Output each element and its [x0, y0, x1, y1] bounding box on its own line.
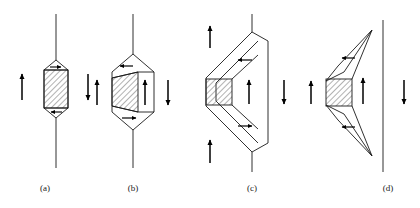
panel-d-upper-blade — [326, 30, 372, 81]
panel-b-group — [97, 14, 168, 168]
panel-c-hatched-core — [206, 79, 232, 105]
panel-a-caption: (a) — [25, 182, 65, 194]
panel-d-group — [311, 20, 404, 172]
figure-canvas — [0, 0, 420, 208]
panel-b-caption: (b) — [113, 182, 153, 194]
panel-b-hatched-core — [112, 72, 138, 112]
panel-a-group — [22, 14, 88, 168]
figure-container: (a) (b) (c) (d) — [0, 0, 420, 208]
panel-c-group — [206, 14, 284, 172]
panel-c-caption: (c) — [232, 182, 272, 194]
panel-d-upper-join — [352, 30, 372, 79]
panel-a-hatched-core — [44, 70, 68, 108]
panel-d-hatched-core — [326, 79, 352, 106]
panel-d-caption: (d) — [368, 182, 408, 194]
panel-c-upper-join — [232, 55, 258, 79]
panel-d-lower-blade — [326, 105, 372, 156]
